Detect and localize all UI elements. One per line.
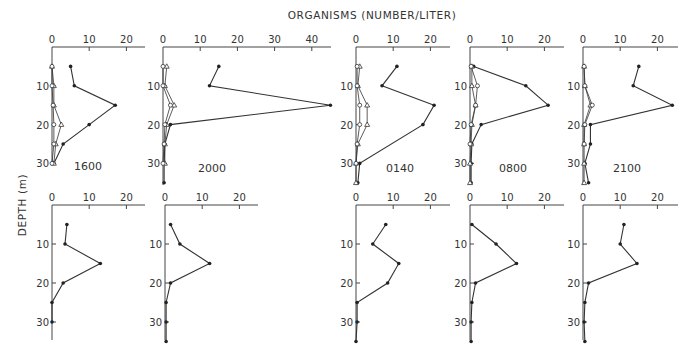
x-tick-label: 0 xyxy=(467,192,473,203)
data-point xyxy=(397,262,401,266)
x-tick-label: 0 xyxy=(353,34,359,45)
series-line-filled xyxy=(52,225,100,323)
x-tick-label: 20 xyxy=(538,34,551,45)
data-point xyxy=(583,123,587,127)
data-point xyxy=(65,223,69,227)
y-tick-label: 20 xyxy=(36,278,49,289)
data-point xyxy=(474,103,478,107)
data-point xyxy=(583,340,587,344)
data-point xyxy=(50,161,54,165)
time-label: 2100 xyxy=(613,162,641,175)
data-point xyxy=(355,320,359,324)
depth-profile-panel-5: 010201020302100 xyxy=(567,34,678,185)
data-point xyxy=(161,84,165,88)
data-point xyxy=(384,223,388,227)
x-tick-label: 0 xyxy=(467,34,473,45)
data-point xyxy=(164,320,168,324)
data-point xyxy=(355,301,359,305)
data-point xyxy=(432,103,436,107)
data-point xyxy=(51,103,55,107)
data-point xyxy=(475,84,479,88)
depth-profile-panel-3: 010201020300140 xyxy=(340,34,450,185)
data-point xyxy=(583,301,587,305)
data-point xyxy=(169,281,173,285)
depth-profile-panel-6: 01020102030 xyxy=(36,192,145,340)
y-tick-label: 20 xyxy=(454,120,467,131)
x-tick-label: 20 xyxy=(120,192,133,203)
data-point xyxy=(524,84,528,88)
data-point xyxy=(355,64,359,68)
x-tick-label: 10 xyxy=(83,192,96,203)
data-point xyxy=(162,181,166,185)
series-line-open-circle xyxy=(163,66,170,163)
series-line-filled xyxy=(356,225,399,342)
y-tick-label: 10 xyxy=(340,239,353,250)
time-label: 2000 xyxy=(198,162,226,175)
data-point xyxy=(329,103,333,107)
x-tick-label: 20 xyxy=(651,192,664,203)
x-tick-label: 30 xyxy=(268,34,281,45)
x-tick-label: 0 xyxy=(580,34,586,45)
data-point xyxy=(217,65,221,69)
x-tick-label: 10 xyxy=(614,192,627,203)
data-point xyxy=(670,103,674,107)
series-line-open-triangle xyxy=(165,66,174,163)
data-point xyxy=(583,84,587,88)
data-point xyxy=(380,84,384,88)
y-tick-label: 10 xyxy=(454,81,467,92)
y-tick-label: 10 xyxy=(567,239,580,250)
data-point xyxy=(99,262,103,266)
data-point xyxy=(470,301,474,305)
y-tick-label: 10 xyxy=(36,239,49,250)
data-point xyxy=(365,122,370,126)
data-point xyxy=(469,340,473,344)
data-point xyxy=(635,262,639,266)
data-point xyxy=(61,142,65,146)
data-point xyxy=(474,281,478,285)
x-tick-label: 20 xyxy=(424,192,437,203)
series-line-filled xyxy=(54,66,115,163)
data-point xyxy=(421,123,425,127)
data-point xyxy=(50,84,54,88)
y-tick-label: 20 xyxy=(340,278,353,289)
data-point xyxy=(365,103,370,107)
x-tick-label: 10 xyxy=(83,34,96,45)
y-tick-label: 30 xyxy=(36,317,49,328)
x-tick-label: 20 xyxy=(231,34,244,45)
data-point xyxy=(546,103,550,107)
y-tick-label: 10 xyxy=(454,239,467,250)
y-tick-label: 20 xyxy=(147,120,160,131)
data-point xyxy=(582,320,586,324)
data-point xyxy=(87,123,91,127)
data-point xyxy=(469,123,473,127)
data-point xyxy=(622,223,626,227)
data-point xyxy=(470,223,474,227)
data-point xyxy=(355,84,359,88)
y-tick-label: 30 xyxy=(149,317,162,328)
data-point xyxy=(631,84,635,88)
data-point xyxy=(59,122,64,126)
data-point xyxy=(582,64,586,68)
y-tick-label: 30 xyxy=(340,317,353,328)
data-point xyxy=(73,84,77,88)
data-point xyxy=(358,123,362,127)
y-axis-title: DEPTH (m) xyxy=(16,174,28,237)
data-point xyxy=(63,242,67,246)
data-point xyxy=(162,142,166,146)
y-tick-label: 10 xyxy=(567,81,580,92)
x-tick-label: 20 xyxy=(538,192,551,203)
x-tick-label: 0 xyxy=(353,192,359,203)
x-tick-label: 10 xyxy=(387,192,400,203)
data-point xyxy=(52,123,56,127)
depth-profile-panel-4: 010201020300800 xyxy=(454,34,564,185)
data-point xyxy=(589,142,593,146)
y-tick-label: 30 xyxy=(454,158,467,169)
data-point xyxy=(468,142,472,146)
y-tick-label: 20 xyxy=(567,120,580,131)
x-tick-label: 40 xyxy=(305,34,318,45)
data-point xyxy=(515,262,519,266)
data-point xyxy=(355,142,359,146)
y-tick-label: 30 xyxy=(36,158,49,169)
y-tick-label: 10 xyxy=(36,81,49,92)
y-tick-label: 20 xyxy=(340,120,353,131)
